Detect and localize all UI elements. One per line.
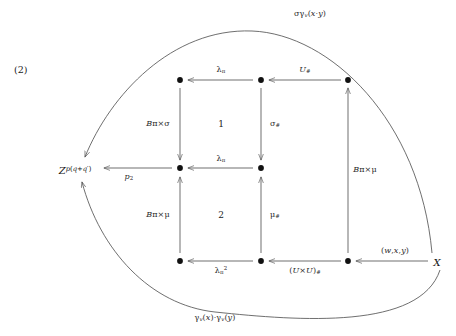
object-X: X: [433, 257, 440, 268]
label-vert-mid-upper-sigma-sharp: σ#: [270, 120, 280, 129]
label-mid-p2: p2: [125, 173, 134, 182]
label-top-left-lambda-pi: λπ: [217, 66, 226, 75]
object-Z: Zp(q+q′): [59, 165, 92, 176]
node-dot-middle-middle: [258, 165, 264, 171]
diagram-canvas: (2) Zp(q+q′) X σγv(x·y) γv(x)·γv(y) λπ U…: [0, 0, 456, 336]
node-dot-bottom-right: [345, 258, 351, 264]
label-vert-left-upper-Bpi-sigma: Bπ×σ: [146, 120, 170, 128]
label-vert-left-lower-Bpi-mu: Bπ×μ: [146, 211, 169, 219]
node-dot-bottom-left: [177, 258, 183, 264]
arrow-group: [82, 31, 440, 319]
label-bottom-lambda-pi-squared: λπ2: [215, 266, 227, 275]
node-dot-top-right: [345, 77, 351, 83]
label-bottom-curve: γv(x)·γv(y): [195, 314, 236, 323]
label-vert-right-Bpi-mu: Bπ×μ: [353, 166, 376, 174]
node-dot-bottom-middle: [258, 258, 264, 264]
label-mid-lambda-pi: λπ: [217, 155, 226, 164]
cell-number-1: 1: [218, 119, 224, 129]
node-dots: [177, 77, 351, 264]
node-dot-middle-left: [177, 165, 183, 171]
label-bottom-wxy: (w,x,y): [381, 247, 409, 255]
equation-number: (2): [14, 64, 27, 75]
label-vert-mid-lower-mu-sharp: μ#: [270, 211, 280, 220]
arrow-curve-top-sigma-gamma: [85, 31, 432, 253]
node-dot-top-middle: [258, 77, 264, 83]
label-top-right-U-sharp: U#: [299, 66, 311, 75]
label-bottom-UxU-sharp: (U×U)#: [289, 267, 321, 276]
label-top-curve: σγv(x·y): [294, 10, 326, 19]
cell-number-2: 2: [218, 210, 224, 220]
node-dot-top-left: [177, 77, 183, 83]
